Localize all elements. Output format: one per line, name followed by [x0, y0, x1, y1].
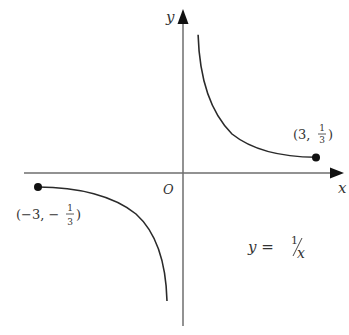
svg-text:y =: y = — [247, 238, 279, 256]
svg-text:3: 3 — [319, 135, 325, 145]
x-axis-arrow-icon — [330, 168, 344, 179]
y-axis-arrow-icon — [178, 9, 189, 24]
origin-label: O — [163, 182, 174, 197]
svg-text:1: 1 — [67, 203, 73, 213]
x-axis-label: x — [338, 179, 347, 197]
equation-label: y = 1 x — [247, 234, 305, 261]
point-right — [312, 154, 320, 162]
point-right-label: (3, 1 3 ) — [293, 123, 333, 145]
curve-negative-branch — [38, 187, 167, 301]
svg-text:1: 1 — [319, 123, 325, 133]
svg-text:): ) — [328, 127, 333, 142]
svg-text:): ) — [76, 207, 81, 222]
svg-text:3: 3 — [67, 217, 73, 227]
y-axis — [178, 9, 189, 326]
hyperbola-diagram: y x O (3, 1 3 ) (−3, − 1 3 ) y = 1 x — [0, 0, 349, 335]
point-left-label: (−3, − 1 3 ) — [16, 203, 81, 227]
svg-text:(3,: (3, — [293, 127, 315, 142]
point-left — [34, 183, 42, 191]
y-axis-label: y — [165, 8, 175, 26]
svg-text:x: x — [297, 245, 305, 261]
svg-text:(−3, −: (−3, − — [16, 207, 59, 222]
x-axis — [24, 168, 344, 179]
